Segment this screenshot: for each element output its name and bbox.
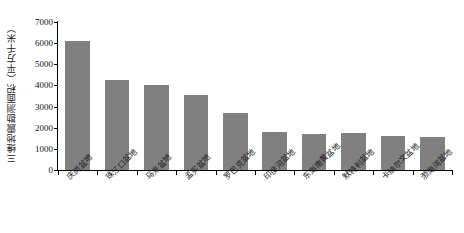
y-axis-tick-mark	[54, 22, 58, 23]
x-axis-tick-mark	[216, 171, 217, 175]
x-axis-tick-mark	[452, 171, 453, 175]
x-axis-tick-mark	[176, 171, 177, 175]
y-axis-tick-label: 3000	[35, 102, 53, 112]
y-axis-tick-mark	[54, 85, 58, 86]
y-axis-tick-label: 4000	[35, 80, 53, 90]
y-axis-tick-label: 1000	[35, 144, 53, 154]
plot-area: 01000200030004000500060007000	[58, 22, 452, 170]
y-axis-title-text: 三维地震勘测面积（平方千米）	[7, 23, 17, 163]
x-axis-tick-mark	[97, 171, 98, 175]
x-axis-tick-mark	[58, 171, 59, 175]
x-axis-tick-mark	[255, 171, 256, 175]
y-axis-tick-label: 7000	[35, 17, 53, 27]
y-axis-tick-mark	[54, 64, 58, 65]
y-axis-tick-mark	[54, 43, 58, 44]
x-axis-tick-mark	[413, 171, 414, 175]
y-axis-tick-mark	[54, 149, 58, 150]
y-axis-tick-mark	[54, 128, 58, 129]
bar	[65, 41, 89, 170]
y-axis-tick-label: 0	[49, 165, 54, 175]
x-axis-tick-mark	[334, 171, 335, 175]
y-axis-title: 三维地震勘测面积（平方千米）	[2, 18, 22, 168]
x-axis-tick-mark	[373, 171, 374, 175]
x-axis-tick-mark	[137, 171, 138, 175]
y-axis-tick-label: 5000	[35, 59, 53, 69]
y-axis-tick-label: 2000	[35, 123, 53, 133]
y-axis-tick-label: 6000	[35, 38, 53, 48]
y-axis-tick-mark	[54, 107, 58, 108]
bar-chart: 三维地震勘测面积（平方千米） 0100020003000400050006000…	[0, 0, 464, 233]
x-axis-tick-mark	[294, 171, 295, 175]
